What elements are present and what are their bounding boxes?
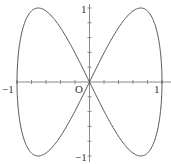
y-tick-label-neg1: −1 (75, 151, 87, 163)
y-tick-label-1: 1 (81, 3, 87, 15)
axes (16, 4, 171, 162)
x-tick-label-1: 1 (154, 83, 160, 95)
x-tick-label-neg1: −1 (2, 83, 14, 95)
parametric-plot: O −1 1 1 −1 (0, 0, 171, 164)
origin-label: O (75, 83, 83, 95)
